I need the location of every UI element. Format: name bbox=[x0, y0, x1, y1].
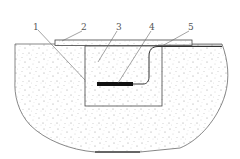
callout-label-2: 2 bbox=[81, 22, 87, 32]
inner-box bbox=[85, 46, 162, 106]
cross-section-diagram: 1 2 3 4 5 bbox=[0, 0, 240, 159]
callout-label-1: 1 bbox=[33, 22, 39, 32]
callout-label-3: 3 bbox=[116, 22, 122, 32]
embedded-element bbox=[97, 82, 133, 86]
leader-line-2 bbox=[62, 31, 82, 41]
base-strip bbox=[95, 151, 140, 153]
callout-label-4: 4 bbox=[149, 22, 155, 32]
callout-label-5: 5 bbox=[188, 22, 194, 32]
